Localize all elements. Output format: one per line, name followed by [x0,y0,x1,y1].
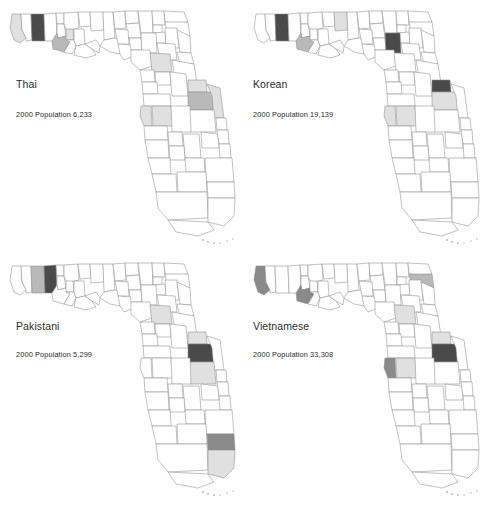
county-broward [207,182,235,198]
county-okaloosa [31,266,45,293]
county-indianriver [460,118,471,130]
county-sumter [155,324,171,337]
county-lee [152,174,177,192]
county-monroe [168,220,214,236]
county-orange [432,92,458,110]
county-charlotte [148,158,171,174]
county-madison [113,263,126,281]
county-liberty [74,281,85,298]
county-pasco [143,346,171,358]
county-leon [90,264,104,283]
county-glades [185,410,205,424]
county-jefferson [347,264,359,292]
county-hillsborough [396,106,417,126]
key-dot [219,494,221,496]
county-palmbeach [205,158,234,182]
county-hamilton [125,11,139,24]
county-citrus [140,70,155,82]
county-orange [432,344,458,362]
key-dot [446,491,448,493]
county-okeechobee [445,384,463,400]
county-gadsden [78,12,91,27]
florida-map-vietnamese [244,252,487,508]
county-martin [463,144,475,158]
county-sarasota [389,140,413,158]
county-madison [357,263,370,281]
county-miamidade [208,198,235,226]
map-panel-pakistani[interactable]: Pakistani 2000 Population 5,299 [0,252,243,508]
county-columbia [138,263,153,285]
county-polk [415,358,435,384]
key-dot [457,242,459,244]
key-dot [226,240,228,242]
key-dot [446,239,448,241]
county-osceola [188,110,216,132]
county-calhoun [310,281,318,292]
county-seminole [188,332,207,344]
county-columbia [138,11,153,33]
county-layer [254,263,479,488]
county-levy [131,302,152,322]
county-hendry [177,172,207,192]
florida-map-pakistani [0,252,243,508]
county-pasco [387,94,415,106]
county-gadsden [322,12,335,27]
florida-map-thai [0,0,243,256]
key-dot [207,493,209,495]
county-sarasota [145,140,169,158]
county-monroe [412,220,458,236]
county-indianriver [216,370,227,382]
county-stlucie [461,130,473,144]
county-jefferson [103,12,115,40]
florida-county-map-svg [0,0,243,256]
florida-county-map-svg [244,252,487,508]
county-charlotte [392,410,415,426]
county-manatee [388,378,412,392]
county-polk [171,106,191,132]
county-charlotte [392,158,415,174]
map-panel-thai[interactable]: Thai 2000 Population 6,233 [0,0,243,256]
key-dot [451,493,453,495]
county-indianriver [460,370,471,382]
key-dot [213,242,215,244]
county-sumter [399,72,415,85]
county-holmes [56,13,64,24]
county-orange [188,92,214,110]
county-collier [156,444,208,472]
florida-keys [202,490,234,496]
county-seminole [432,80,451,92]
county-baker [152,263,165,277]
panel-population-korean: 2000 Population 19,139 [253,110,333,119]
county-highlands [183,134,201,158]
county-okeechobee [445,132,463,148]
county-osceola [432,362,460,384]
florida-county-map-svg [0,252,243,508]
county-jackson [308,264,323,282]
county-broward [451,434,479,450]
county-holmes [56,265,64,276]
county-calhoun [66,29,74,40]
map-panel-vietnamese[interactable]: Vietnamese 2000 Population 33,308 [244,252,487,508]
county-okaloosa [275,14,289,41]
county-holmes [300,265,308,276]
county-hillsborough [152,358,173,378]
county-stlucie [217,382,229,396]
county-miamidade [452,450,479,478]
map-panel-korean[interactable]: Korean 2000 Population 19,139 [244,0,487,256]
county-hardee [168,384,183,398]
county-miamidade [208,450,235,478]
county-liberty [318,29,329,46]
county-orange [188,344,214,362]
county-marion [394,53,416,72]
key-dot [476,490,478,492]
county-lee [152,426,177,444]
panel-label-korean: Korean [253,78,287,90]
county-hernando [142,334,158,346]
county-martin [463,396,475,410]
county-gilchrist [373,290,386,302]
county-levy [375,50,396,70]
county-hardee [412,132,427,146]
county-okeechobee [201,132,219,148]
county-pasco [143,94,171,106]
county-manatee [388,126,412,140]
